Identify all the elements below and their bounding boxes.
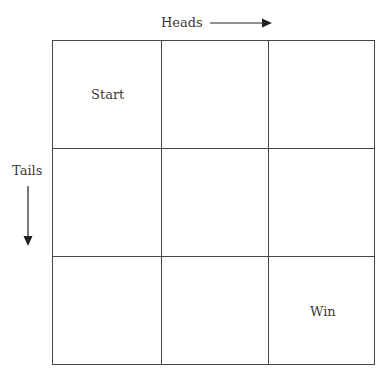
grid-line <box>53 256 374 257</box>
grid-line <box>268 41 269 364</box>
arrow-down-icon <box>22 186 34 246</box>
tails-label: Tails <box>12 163 42 178</box>
win-cell-label: Win <box>310 304 336 319</box>
grid-line <box>161 41 162 364</box>
start-cell-label: Start <box>91 87 124 102</box>
heads-label: Heads <box>161 15 203 30</box>
game-grid: Start Win <box>52 40 375 365</box>
grid-line <box>53 148 374 149</box>
arrow-right-icon <box>210 17 272 29</box>
